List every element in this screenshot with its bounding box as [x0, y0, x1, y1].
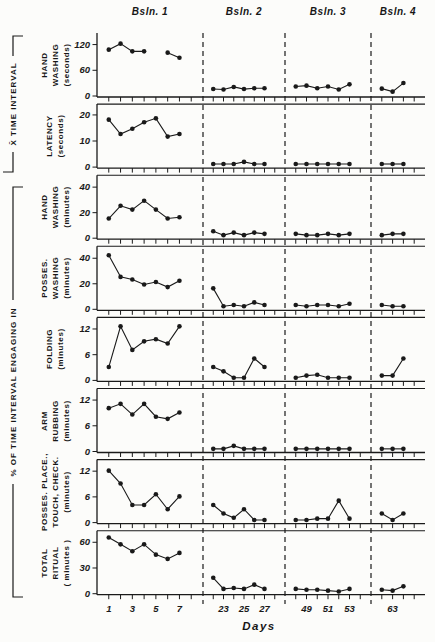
data-line: [296, 84, 350, 89]
data-line: [168, 53, 180, 58]
y-tick-label: 20: [78, 109, 90, 120]
y-tick-label: 6: [85, 420, 91, 431]
x-axis-title: Days: [242, 620, 276, 632]
phase-label-4: Bsln. 4: [380, 6, 416, 17]
y-tick-label: 0: [85, 588, 91, 599]
y-tick-label: 20: [78, 207, 90, 218]
data-line: [109, 201, 180, 219]
y-tick-label: 12: [79, 323, 90, 334]
y-tick-label: 6: [85, 491, 91, 502]
bracket-line: [13, 187, 23, 300]
panel-hand-washing-minutes: 02040: [78, 175, 425, 244]
panel-label-line: ( minutes ): [61, 493, 72, 633]
data-point: [106, 406, 111, 411]
data-line: [296, 375, 350, 378]
data-line: [296, 234, 350, 235]
data-point: [106, 47, 111, 52]
data-point: [401, 584, 406, 589]
phase-label-3: Bsln. 3: [310, 6, 346, 17]
panel-total-ritual-minutes: 03060: [79, 531, 425, 600]
phase-label-1: Bsln. 1: [132, 6, 168, 17]
panel-label-line: TOTAL: [40, 493, 51, 633]
y-tick-label: 12: [79, 465, 90, 476]
y-tick-label: 0: [85, 161, 91, 172]
x-tick-label: 25: [238, 603, 250, 614]
panel-arm-rubbing-minutes: 0612: [79, 389, 425, 458]
y-tick-label: 40: [78, 181, 90, 192]
x-tick-label: 23: [217, 603, 229, 614]
data-line: [109, 44, 144, 52]
panel-folding-minutes: 0612: [79, 317, 425, 386]
data-line: [213, 446, 264, 449]
left-bracket-label-percent-time-engaging: % OF TIME INTERVAL ENGAGING IN: [9, 307, 18, 476]
x-tick-label: 49: [300, 603, 312, 614]
data-line: [296, 589, 350, 592]
data-line: [213, 358, 264, 377]
y-tick-label: 60: [79, 536, 90, 547]
data-point: [401, 511, 406, 516]
y-tick-label: 120: [74, 39, 91, 50]
y-tick-label: 10: [79, 135, 90, 146]
data-line: [213, 505, 264, 520]
data-line: [213, 578, 264, 589]
bracket-line: [13, 36, 23, 56]
y-tick-label: 30: [79, 562, 90, 573]
y-tick-label: 0: [85, 517, 91, 528]
data-line: [109, 326, 180, 367]
y-tick-label: 0: [85, 374, 91, 385]
x-tick-label: 51: [323, 603, 334, 614]
data-point: [106, 535, 111, 540]
left-bracket-label-mean-time-interval: X̄ TIME INTERVAL: [9, 62, 18, 145]
x-tick-label: 3: [130, 603, 136, 614]
x-tick-label: 53: [344, 603, 355, 614]
data-line: [109, 537, 180, 558]
x-tick-label: 5: [153, 603, 159, 614]
y-tick-label: 20: [78, 278, 90, 289]
y-tick-label: 0: [85, 446, 91, 457]
panel-hand-washing-seconds: 060120: [74, 33, 425, 102]
x-tick-label: 1: [106, 603, 111, 614]
x-tick-label: 7: [177, 603, 183, 614]
panel-posses-place-touch-check-minutes: 0612: [79, 460, 425, 528]
data-line: [213, 288, 264, 306]
data-line: [213, 231, 264, 235]
data-line: [296, 304, 350, 307]
figure: 0601200102002040020400612061206120306013…: [0, 0, 435, 642]
phase-label-2: Bsln. 2: [226, 6, 262, 17]
y-tick-label: 0: [85, 232, 91, 243]
data-line: [296, 501, 350, 520]
data-line: [382, 358, 404, 375]
panel-label-line: RITUAL: [51, 493, 62, 633]
y-tick-label: 6: [85, 349, 91, 360]
data-point: [347, 82, 352, 87]
y-tick-label: 60: [79, 64, 90, 75]
y-tick-label: 0: [85, 90, 91, 101]
panel-latency-seconds: 01020: [78, 104, 425, 173]
data-line: [213, 162, 264, 164]
data-line: [213, 87, 264, 90]
panel-label-total-ritual-minutes: TOTALRITUAL( minutes ): [40, 493, 72, 633]
y-tick-label: 12: [79, 394, 90, 405]
x-tick-label: 27: [258, 603, 270, 614]
y-tick-label: 0: [85, 303, 91, 314]
bracket-line: [3, 152, 13, 172]
panel-posses-washing-minutes: 02040: [78, 246, 425, 314]
data-point: [106, 253, 111, 258]
x-tick-label: 63: [387, 603, 398, 614]
bracket-line: [13, 484, 23, 597]
y-tick-label: 40: [78, 252, 90, 263]
